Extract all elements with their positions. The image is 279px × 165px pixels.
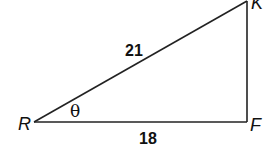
vertex-label-r: R	[18, 114, 31, 134]
hypotenuse-length-label: 21	[125, 42, 143, 59]
vertex-label-k: K	[251, 0, 264, 13]
base-length-label: 18	[139, 130, 157, 147]
vertex-label-f: F	[250, 115, 262, 135]
triangle-diagram: R F K 21 18 θ	[0, 0, 279, 165]
triangle	[34, 1, 247, 122]
side-hypotenuse	[34, 1, 247, 122]
angle-theta-label: θ	[70, 101, 80, 121]
